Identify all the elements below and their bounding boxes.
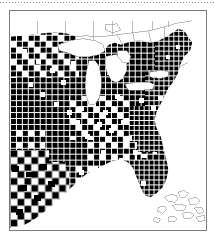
lake-michigan: [85, 61, 101, 105]
lake-erie: [125, 82, 155, 90]
figure-page: [0, 0, 214, 236]
top-dotted-rule: [0, 2, 214, 3]
map-frame: [9, 10, 207, 231]
lake-ontario: [149, 70, 169, 78]
distribution-map-svg: [10, 11, 206, 230]
